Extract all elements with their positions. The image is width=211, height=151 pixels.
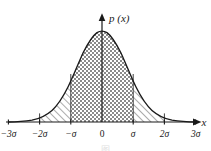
xtick-label-sigma: σ <box>131 129 136 139</box>
x-axis-arrow-icon <box>193 119 202 126</box>
x-axis-label: x <box>201 116 207 128</box>
y-axis-arrow-icon <box>99 13 106 21</box>
normal-distribution-chart: p (x) x −3σ −2σ −σ 0 σ 2σ 3σ <box>0 0 211 151</box>
xtick-label-minus-sigma: −σ <box>65 129 76 139</box>
xtick-label-minus-2sigma: −2σ <box>32 129 48 139</box>
xtick-label-2sigma: 2σ <box>160 129 170 139</box>
xtick-label-3sigma: 3σ <box>190 129 201 139</box>
xtick-label-zero: 0 <box>100 129 105 139</box>
figure-container: p (x) x −3σ −2σ −σ 0 σ 2σ 3σ 图 <box>0 0 211 151</box>
xtick-label-minus-3sigma: −3σ <box>0 129 16 139</box>
y-axis-label: p (x) <box>108 12 130 25</box>
figure-caption: 图 <box>0 143 211 151</box>
shaded-region-central <box>0 0 211 122</box>
